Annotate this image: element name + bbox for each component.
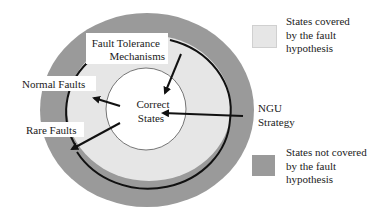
- correct-states-label-line1: Correct: [137, 98, 170, 110]
- ngu-strategy-label: NGU Strategy: [258, 102, 295, 129]
- legend-label-covered: States covered by the fault hypothesis: [286, 15, 389, 56]
- legend-swatch-uncovered: [252, 155, 275, 176]
- fault-tolerance-label-line1: Fault Tolerance: [92, 37, 160, 49]
- fault-tolerance-label-line2: Mechanisms: [109, 50, 165, 62]
- normal-faults-label: Normal Faults: [22, 78, 85, 90]
- legend-label-uncovered: States not covered by the fault hypothes…: [286, 146, 389, 187]
- legend-swatch-covered: [252, 25, 277, 48]
- rare-faults-label: Rare Faults: [26, 124, 76, 136]
- correct-states-label-line2: States: [138, 112, 164, 124]
